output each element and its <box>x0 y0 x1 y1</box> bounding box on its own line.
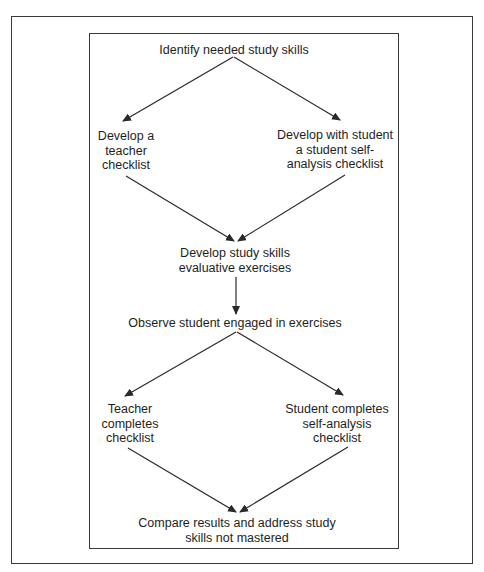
node-text: Observe student engaged in exercises <box>128 316 341 331</box>
node-text: evaluative exercises <box>179 261 292 276</box>
node-student-completes: Student completes self-analysis checklis… <box>285 402 389 446</box>
arrow-observe-to-student-completes <box>237 332 343 395</box>
node-develop-teacher-checklist: Develop a teacher checklist <box>98 129 154 173</box>
arrow-teacher-completes-to-compare <box>128 448 236 512</box>
node-text: Develop study skills <box>179 246 292 261</box>
node-text: checklist <box>285 431 389 446</box>
node-text: checklist <box>98 158 154 173</box>
arrow-observe-to-teacher-completes <box>125 332 236 396</box>
node-text: completes <box>102 417 159 432</box>
node-text: Student completes <box>285 402 389 417</box>
node-text: teacher <box>98 144 154 159</box>
node-text: Compare results and address study <box>138 516 335 531</box>
node-identify-study-skills: Identify needed study skills <box>159 43 308 58</box>
node-text: skills not mastered <box>138 531 335 546</box>
node-text: analysis checklist <box>277 157 393 172</box>
node-develop-exercises: Develop study skills evaluative exercise… <box>179 246 292 275</box>
node-text: Develop with student <box>277 128 393 143</box>
node-compare-results: Compare results and address study skills… <box>138 516 335 545</box>
node-text: Develop a <box>98 129 154 144</box>
node-teacher-completes: Teacher completes checklist <box>102 402 159 446</box>
node-develop-student-checklist: Develop with student a student self- ana… <box>277 128 393 172</box>
flow-arrows <box>0 0 484 572</box>
arrow-teacher-checklist-to-exercises <box>126 176 234 241</box>
node-text: a student self- <box>277 143 393 158</box>
node-text: Teacher <box>102 402 159 417</box>
node-text: Identify needed study skills <box>159 43 308 58</box>
arrow-identify-to-student-checklist <box>234 57 340 120</box>
node-text: self-analysis <box>285 417 389 432</box>
arrow-identify-to-teacher-checklist <box>123 57 233 121</box>
arrow-student-completes-to-compare <box>240 447 348 512</box>
node-text: checklist <box>102 431 159 446</box>
arrow-student-checklist-to-exercises <box>238 175 345 241</box>
node-observe-student: Observe student engaged in exercises <box>128 316 341 331</box>
